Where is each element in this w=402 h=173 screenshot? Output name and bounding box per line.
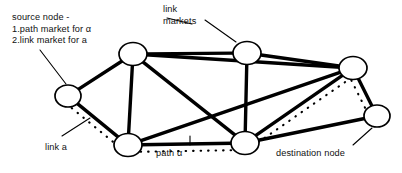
- graph-node: [55, 85, 81, 107]
- graph-node: [231, 132, 259, 155]
- graph-node: [339, 57, 367, 80]
- leader-link-a: [62, 118, 90, 136]
- graph-edge: [129, 64, 133, 135]
- graph-node: [364, 105, 390, 127]
- graph-edge: [77, 60, 123, 90]
- destination-node-label: destination node: [276, 148, 345, 160]
- source-node-label: source node - 1.path market for α 2.link…: [12, 12, 91, 47]
- path-alpha-label: path α: [156, 148, 182, 160]
- edges-layer: [76, 53, 372, 145]
- graph-edge: [76, 103, 119, 138]
- graph-node: [119, 43, 147, 66]
- leader-source-node: [40, 50, 66, 84]
- leader-link-markets-2: [205, 20, 236, 42]
- link-a-label: link a: [45, 142, 67, 154]
- path-overlay-segment: [141, 150, 233, 152]
- leader-destination: [353, 128, 372, 145]
- graph-node: [114, 134, 142, 157]
- network-diagram-figure: source node - 1.path market for α 2.link…: [0, 0, 402, 173]
- graph-edge: [140, 143, 232, 145]
- graph-edge: [358, 77, 373, 107]
- graph-edge: [145, 53, 234, 54]
- graph-node: [233, 42, 261, 65]
- graph-edge: [245, 63, 247, 133]
- path-overlay-segment: [258, 80, 347, 142]
- link-markets-label: link markets: [163, 4, 196, 27]
- path-overlay-segment: [351, 80, 366, 110]
